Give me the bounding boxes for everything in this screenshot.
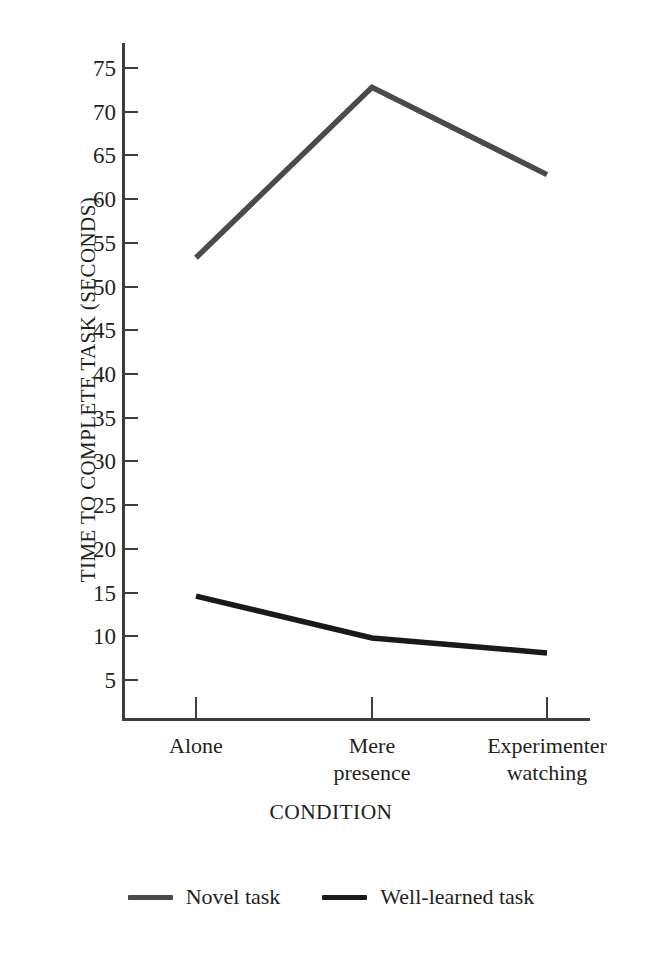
x-axis-tick-label: Merepresence (277, 733, 467, 787)
x-axis-tick-label-line: Alone (101, 733, 291, 760)
y-axis-tick-label: 15 (56, 582, 116, 605)
x-axis-tick-label: Alone (101, 733, 291, 760)
y-axis-tick-label: 70 (56, 101, 116, 124)
series-line-novel-task (196, 87, 547, 257)
x-axis-tick-label-line: Experimenter (452, 733, 642, 760)
y-axis-tick-label: 45 (56, 319, 116, 342)
legend-item[interactable]: Well-learned task (322, 884, 534, 910)
legend-item-label: Well-learned task (380, 884, 534, 910)
y-axis-tick-label: 10 (56, 625, 116, 648)
legend-line-swatch-icon (322, 895, 367, 900)
y-axis-tick-label: 35 (56, 407, 116, 430)
x-axis-title: CONDITION (0, 800, 662, 825)
chart-legend: Novel taskWell-learned task (0, 884, 662, 910)
y-axis-tick-label: 60 (56, 188, 116, 211)
legend-line-swatch-icon (128, 895, 173, 900)
y-axis-tick-label: 5 (56, 669, 116, 692)
y-axis-tick-label: 50 (56, 276, 116, 299)
line-chart-figure: TIME TO COMPLETE TASK (SECONDS) 75706560… (0, 0, 662, 963)
plot-area: 75706560555045403530252015105 AloneMerep… (122, 43, 590, 721)
y-axis-tick-label: 40 (56, 363, 116, 386)
y-axis-tick-label: 30 (56, 450, 116, 473)
x-axis-tick-label-line: presence (277, 760, 467, 787)
y-axis-tick-label: 25 (56, 494, 116, 517)
x-axis-tick-label-line: watching (452, 760, 642, 787)
y-axis-tick-label: 75 (56, 57, 116, 80)
y-axis-tick-label: 55 (56, 232, 116, 255)
legend-item-label: Novel task (186, 884, 281, 910)
y-axis-title: TIME TO COMPLETE TASK (SECONDS) (76, 80, 101, 700)
y-axis-tick-label: 65 (56, 144, 116, 167)
x-axis-tick-label: Experimenterwatching (452, 733, 642, 787)
x-axis-tick-label-line: Mere (277, 733, 467, 760)
legend-item[interactable]: Novel task (128, 884, 281, 910)
series-line-well-learned-task (196, 596, 547, 653)
series-lines (122, 43, 590, 721)
y-axis-tick-label: 20 (56, 538, 116, 561)
